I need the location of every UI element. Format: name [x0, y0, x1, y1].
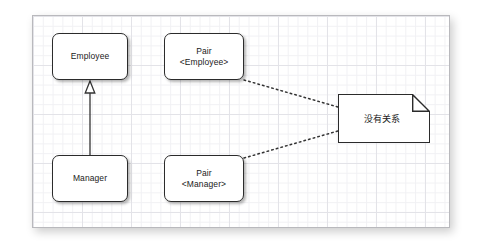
diagram-root: Employee Pair <Employee> Manager Pair <M… [0, 0, 480, 245]
class-node-employee[interactable]: Employee [52, 33, 128, 80]
class-node-pair-employee-label: Pair <Employee> [180, 46, 229, 68]
class-node-manager-label: Manager [73, 173, 107, 184]
uml-note-no-relation[interactable]: 没有关系 [338, 94, 430, 143]
class-node-manager[interactable]: Manager [52, 155, 128, 202]
class-node-pair-manager-label: Pair <Manager> [182, 168, 226, 190]
note-label: 没有关系 [338, 94, 430, 143]
class-node-employee-label: Employee [71, 51, 110, 62]
class-node-pair-manager[interactable]: Pair <Manager> [164, 155, 244, 202]
class-node-pair-employee[interactable]: Pair <Employee> [164, 33, 244, 80]
